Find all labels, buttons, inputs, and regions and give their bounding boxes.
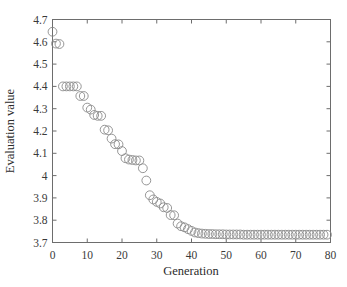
- x-tick-label: 50: [221, 249, 233, 261]
- x-tick-label: 20: [116, 249, 128, 261]
- y-tick-label: 4.7: [33, 14, 48, 26]
- y-tick-label: 4.5: [33, 58, 48, 70]
- evaluation-value-scatter-plot: 3.73.83.944.14.24.34.44.54.64.7 01020304…: [0, 0, 347, 287]
- scatter-chart-figure: 3.73.83.944.14.24.34.44.54.64.7 01020304…: [0, 0, 347, 287]
- x-tick-label: 60: [255, 249, 267, 261]
- y-tick-label: 4.2: [33, 125, 48, 137]
- x-tick-label: 10: [82, 249, 94, 261]
- x-tick-label: 30: [151, 249, 163, 261]
- y-tick-label: 3.8: [33, 214, 48, 226]
- y-tick-label: 3.9: [33, 192, 48, 204]
- x-axis-title: Generation: [163, 264, 219, 278]
- y-tick-label: 4.6: [33, 36, 48, 48]
- y-tick-label: 4.4: [33, 80, 48, 92]
- y-tick-label: 3.7: [33, 237, 48, 249]
- y-axis-title: Evaluation value: [3, 88, 17, 173]
- y-tick-label: 4: [42, 170, 48, 182]
- data-point-markers: [48, 27, 331, 239]
- x-tick-label: 70: [290, 249, 302, 261]
- y-tick-label: 4.1: [33, 147, 48, 159]
- data-point-marker: [142, 176, 151, 185]
- data-point-marker: [138, 164, 147, 173]
- tick-marks-group: [53, 20, 331, 243]
- y-axis-tick-labels: 3.73.83.944.14.24.34.44.54.64.7: [33, 14, 48, 249]
- x-axis-tick-labels: 01020304050607080: [50, 249, 337, 261]
- y-tick-label: 4.3: [33, 103, 48, 115]
- x-tick-label: 0: [50, 249, 56, 261]
- x-tick-label: 40: [186, 249, 198, 261]
- plot-area-frame: [53, 20, 331, 243]
- x-tick-label: 80: [325, 249, 337, 261]
